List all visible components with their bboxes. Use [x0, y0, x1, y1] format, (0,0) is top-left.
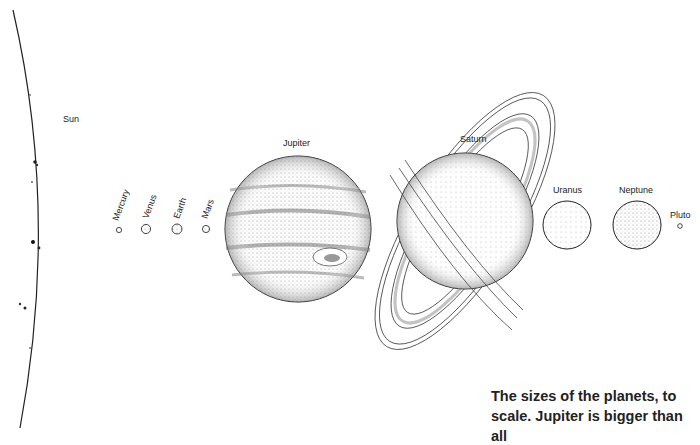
- mercury: [116, 227, 121, 232]
- mars: [202, 225, 209, 232]
- caption: The sizes of the planets, to scale. Jupi…: [491, 386, 700, 445]
- label-pluto: Pluto: [670, 210, 691, 220]
- jupiter: [225, 156, 371, 302]
- caption-line-2: scale. Jupiter is bigger than all: [491, 406, 700, 445]
- label-saturn: Saturn: [460, 134, 487, 144]
- label-neptune: Neptune: [619, 185, 653, 195]
- caption-line-1: The sizes of the planets, to: [491, 386, 700, 406]
- venus: [141, 224, 150, 233]
- uranus: [543, 201, 591, 249]
- earth: [172, 224, 182, 234]
- label-uranus: Uranus: [553, 185, 582, 195]
- pluto: [678, 224, 683, 229]
- label-sun: Sun: [63, 114, 79, 124]
- sun: [0, 0, 40, 428]
- label-jupiter: Jupiter: [283, 138, 310, 148]
- neptune: [613, 201, 661, 249]
